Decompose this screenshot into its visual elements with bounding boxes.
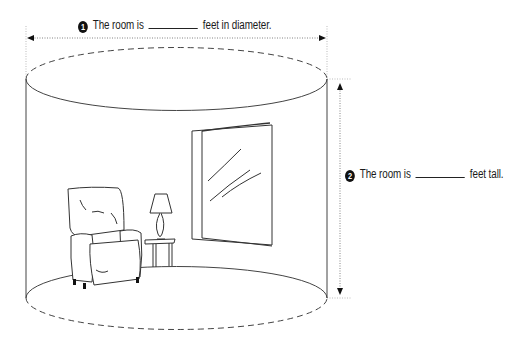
diameter-arrow bbox=[27, 35, 326, 41]
floor-back-edge bbox=[26, 267, 327, 298]
answer-blank-height[interactable] bbox=[416, 167, 465, 178]
table-lamp bbox=[150, 194, 172, 239]
chair-leg bbox=[136, 277, 139, 283]
question-prefix: The room is bbox=[93, 18, 144, 32]
chair-leg bbox=[83, 283, 86, 289]
window bbox=[192, 123, 272, 246]
window-glare bbox=[208, 149, 241, 181]
chair-leg bbox=[73, 279, 76, 285]
ceiling-front-edge bbox=[26, 79, 327, 110]
question-number-badge: 1 bbox=[78, 21, 88, 33]
height-arrow bbox=[337, 83, 343, 295]
question-diameter: 1The room isfeet in diameter. bbox=[78, 18, 271, 33]
answer-blank-diameter[interactable] bbox=[149, 18, 198, 29]
question-suffix: feet in diameter. bbox=[203, 18, 272, 32]
question-suffix: feet tall. bbox=[470, 167, 504, 181]
armchair bbox=[68, 187, 142, 289]
question-number-badge: 2 bbox=[345, 170, 355, 182]
floor-front-edge bbox=[26, 298, 327, 329]
question-prefix: The room is bbox=[360, 167, 411, 181]
side-table bbox=[145, 239, 175, 267]
height-guides bbox=[327, 79, 352, 298]
ceiling-back-edge bbox=[26, 48, 327, 79]
diameter-guides bbox=[26, 26, 327, 78]
question-height: 2The room isfeet tall. bbox=[345, 167, 504, 182]
